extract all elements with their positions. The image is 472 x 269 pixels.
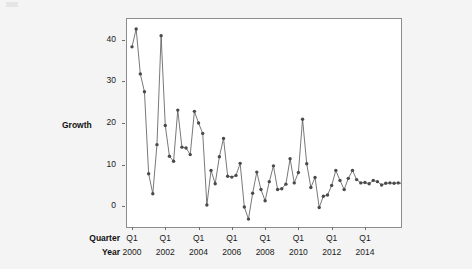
data-point (130, 45, 133, 48)
x-tick-label-year: 2010 (283, 247, 313, 257)
plot-area (126, 18, 402, 228)
data-point (388, 181, 391, 184)
data-point (372, 179, 375, 182)
data-point (338, 179, 341, 182)
data-point (305, 162, 308, 165)
x-tick-label-quarter: Q1 (186, 233, 212, 243)
y-tick-label: 30 (94, 75, 116, 85)
data-point (234, 174, 237, 177)
data-point (247, 217, 250, 220)
x-tick-label-quarter: Q1 (152, 233, 178, 243)
data-point (342, 188, 345, 191)
x-tick-label-year: 2014 (350, 247, 380, 257)
page-background: Growth 010203040 Q12000Q12002Q12004Q1200… (0, 0, 472, 269)
x-tick-mark (332, 227, 333, 230)
x-tick-mark (165, 227, 166, 230)
data-point (376, 180, 379, 183)
data-point (172, 160, 175, 163)
data-point (318, 206, 321, 209)
data-point (176, 108, 179, 111)
y-tick-mark (122, 123, 125, 124)
x-axis-row-label-year: Year (62, 247, 120, 257)
data-point (155, 143, 158, 146)
data-point (330, 184, 333, 187)
x-tick-label-quarter: Q1 (319, 233, 345, 243)
data-point (230, 175, 233, 178)
y-axis-title: Growth (62, 120, 92, 130)
data-point (326, 193, 329, 196)
y-tick-mark (122, 81, 125, 82)
data-point (222, 137, 225, 140)
data-point (214, 182, 217, 185)
data-point (147, 172, 150, 175)
data-point (280, 187, 283, 190)
data-point (134, 27, 137, 30)
data-point (189, 153, 192, 156)
y-tick-mark (122, 40, 125, 41)
y-tick-mark (122, 206, 125, 207)
x-tick-mark (298, 227, 299, 230)
data-point (384, 182, 387, 185)
x-tick-mark (132, 227, 133, 230)
data-point (164, 124, 167, 127)
y-tick-label: 40 (94, 34, 116, 44)
data-point (272, 164, 275, 167)
x-tick-label-quarter: Q1 (252, 233, 278, 243)
data-point (251, 192, 254, 195)
data-point (193, 110, 196, 113)
x-tick-label-year: 2002 (150, 247, 180, 257)
data-point (205, 203, 208, 206)
data-point (238, 162, 241, 165)
x-tick-label-year: 2006 (217, 247, 247, 257)
data-point (209, 169, 212, 172)
x-tick-mark (199, 227, 200, 230)
data-point (334, 169, 337, 172)
data-point (255, 170, 258, 173)
x-tick-label-quarter: Q1 (119, 233, 145, 243)
x-tick-mark (232, 227, 233, 230)
data-point (180, 145, 183, 148)
y-tick-label: 0 (94, 200, 116, 210)
data-point (293, 181, 296, 184)
data-point (397, 181, 400, 184)
data-point (363, 181, 366, 184)
data-point (347, 177, 350, 180)
series-line-and-markers (127, 19, 401, 227)
data-point (288, 157, 291, 160)
data-point (380, 183, 383, 186)
x-tick-label-year: 2000 (117, 247, 147, 257)
data-point (355, 178, 358, 181)
data-point (243, 205, 246, 208)
data-point (367, 182, 370, 185)
x-tick-label-quarter: Q1 (352, 233, 378, 243)
data-point (309, 186, 312, 189)
data-point (168, 155, 171, 158)
x-tick-label-year: 2012 (317, 247, 347, 257)
data-point (226, 175, 229, 178)
data-point (392, 182, 395, 185)
data-point (143, 90, 146, 93)
data-point (184, 146, 187, 149)
data-point (297, 171, 300, 174)
data-point (197, 121, 200, 124)
x-axis-row-label-quarter: Quarter (62, 233, 120, 243)
x-tick-label-year: 2004 (184, 247, 214, 257)
data-point (284, 182, 287, 185)
growth-time-series-chart: Growth 010203040 Q12000Q12002Q12004Q1200… (0, 0, 472, 269)
x-tick-mark (365, 227, 366, 230)
data-point (276, 188, 279, 191)
x-tick-mark (265, 227, 266, 230)
data-point (359, 181, 362, 184)
data-point (313, 176, 316, 179)
y-tick-label: 20 (94, 117, 116, 127)
data-point (139, 72, 142, 75)
x-tick-label-year: 2008 (250, 247, 280, 257)
data-point (263, 199, 266, 202)
x-tick-label-quarter: Q1 (219, 233, 245, 243)
data-point (301, 118, 304, 121)
data-point (259, 188, 262, 191)
x-tick-label-quarter: Q1 (285, 233, 311, 243)
data-point (322, 195, 325, 198)
data-point (218, 155, 221, 158)
data-point (268, 180, 271, 183)
